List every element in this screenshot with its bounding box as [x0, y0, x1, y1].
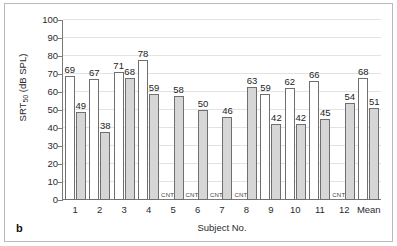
- y-tick-label: 20: [28, 159, 58, 169]
- y-tick-mark: [58, 146, 62, 147]
- x-tick-label: 8: [234, 204, 258, 215]
- x-tick-label: Mean: [357, 204, 381, 215]
- y-tick-mark: [58, 110, 62, 111]
- y-axis-label-base: SRT: [17, 103, 28, 122]
- y-tick-label: 50: [28, 105, 58, 115]
- y-tick-mark: [58, 128, 62, 129]
- x-tick-label: 2: [87, 204, 111, 215]
- x-tick-label: 9: [259, 204, 283, 215]
- bar: [138, 60, 148, 200]
- bar: [260, 94, 270, 200]
- y-tick-label: 40: [28, 123, 58, 133]
- bar-group: 5942: [259, 20, 283, 200]
- y-tick-mark: [58, 74, 62, 75]
- x-tick-label: 6: [185, 204, 209, 215]
- y-axis-label-unit: (dB SPL): [17, 54, 28, 95]
- y-tick-label: 10: [28, 177, 58, 187]
- x-tick-label: 11: [308, 204, 332, 215]
- y-tick-label: 0: [28, 195, 58, 205]
- bar: [65, 76, 75, 200]
- bar: [89, 79, 99, 200]
- bar: [358, 78, 368, 200]
- y-tick-label: 70: [28, 69, 58, 79]
- bar-value-label: 66: [303, 70, 325, 80]
- bar: [345, 103, 355, 200]
- x-tick-label: 1: [63, 204, 87, 215]
- bar-group: CNT54: [332, 20, 356, 200]
- bar-group: CNT58: [161, 20, 185, 200]
- y-tick-label: 80: [28, 51, 58, 61]
- bar-value-label: 51: [363, 97, 385, 107]
- bar: [222, 117, 232, 200]
- y-tick-label: 90: [28, 33, 58, 43]
- bar-value-label: 67: [83, 68, 105, 78]
- bar: [198, 110, 208, 200]
- y-tick-mark: [58, 38, 62, 39]
- y-tick-mark: [58, 200, 62, 201]
- bar: [149, 94, 159, 200]
- bar-group: CNT50: [185, 20, 209, 200]
- x-tick-label: 5: [161, 204, 185, 215]
- figure-panel-b: SRT50 (dB SPL) 6949673871687859CNT58CNT5…: [0, 0, 397, 246]
- x-axis-label: Subject No.: [63, 222, 381, 233]
- bar-group: 6851: [357, 20, 381, 200]
- bar: [309, 81, 319, 200]
- y-axis-label: SRT50 (dB SPL): [17, 28, 28, 148]
- bar-group: 6242: [283, 20, 307, 200]
- bar: [114, 72, 124, 200]
- bar-group: 6949: [63, 20, 87, 200]
- bar-group: CNT46: [210, 20, 234, 200]
- y-tick-label: 100: [28, 15, 58, 25]
- y-tick-mark: [58, 92, 62, 93]
- bar: [174, 96, 184, 200]
- bar: [247, 87, 257, 200]
- x-tick-label: 10: [283, 204, 307, 215]
- bar-value-label: 59: [254, 83, 276, 93]
- y-tick-mark: [58, 164, 62, 165]
- bar-group: 7168: [112, 20, 136, 200]
- bar: [296, 124, 306, 200]
- bar-value-label: 69: [59, 65, 81, 75]
- bar: [320, 119, 330, 200]
- bar-group: 6645: [308, 20, 332, 200]
- y-tick-mark: [58, 56, 62, 57]
- x-tick-label: 3: [112, 204, 136, 215]
- bar-value-label: 78: [132, 49, 154, 59]
- bar: [369, 108, 379, 200]
- y-tick-mark: [58, 182, 62, 183]
- x-tick-label: 7: [210, 204, 234, 215]
- y-tick-label: 60: [28, 87, 58, 97]
- bar-value-label: 62: [279, 77, 301, 87]
- bar: [271, 124, 281, 200]
- y-tick-label: 30: [28, 141, 58, 151]
- bar: [76, 112, 86, 200]
- bar-value-label: 68: [352, 67, 374, 77]
- bar-group: CNT63: [234, 20, 258, 200]
- x-tick-label: 12: [332, 204, 356, 215]
- bar: [285, 88, 295, 200]
- x-tick-label: 4: [136, 204, 160, 215]
- bar: [125, 78, 135, 200]
- panel-letter: b: [16, 222, 23, 234]
- bar-group: 6738: [87, 20, 111, 200]
- y-tick-mark: [58, 20, 62, 21]
- bar-group: 7859: [136, 20, 160, 200]
- bar: [100, 132, 110, 200]
- plot-area: 6949673871687859CNT58CNT50CNT46CNT635942…: [63, 20, 381, 200]
